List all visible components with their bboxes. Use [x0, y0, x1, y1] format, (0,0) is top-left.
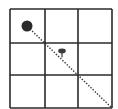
small-mushroom-marker — [58, 49, 66, 58]
large-dot-marker — [22, 21, 33, 32]
grid-diagram — [0, 0, 118, 109]
dotted-diagonal-path — [30, 29, 112, 108]
marker-cap — [58, 49, 66, 54]
